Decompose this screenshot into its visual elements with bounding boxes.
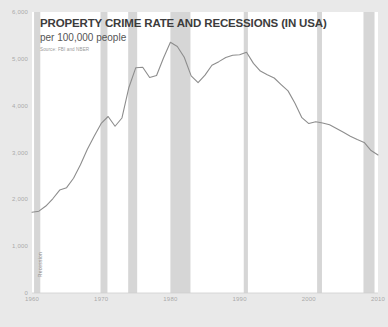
title-block: PROPERTY CRIME RATE AND RECESSIONS (IN U… xyxy=(40,17,330,53)
y-axis-tick-label: 1,000 xyxy=(12,243,28,249)
recession-bands-group xyxy=(34,12,374,293)
x-axis-tick-label: 1980 xyxy=(163,296,177,302)
chart-source-note: Source: FBI and NBER xyxy=(40,46,330,53)
crime-rate-line xyxy=(32,42,378,212)
y-axis-tick-label: 4,000 xyxy=(12,103,28,109)
recession-band xyxy=(128,12,137,293)
x-axis-tick-label: 1970 xyxy=(94,296,108,302)
x-axis-tick-label: 2010 xyxy=(371,296,385,302)
y-axis-tick-column: 01,0002,0003,0004,0005,0006,000 xyxy=(0,0,28,327)
y-axis-tick-label: 2,000 xyxy=(12,196,28,202)
property-crime-chart: 01,0002,0003,0004,0005,0006,000 19601970… xyxy=(0,0,388,327)
y-axis-tick-label: 5,000 xyxy=(12,56,28,62)
recession-band xyxy=(363,12,374,293)
recession-band xyxy=(101,12,108,293)
chart-subtitle: per 100,000 people xyxy=(40,31,330,44)
x-axis-tick-label: 2000 xyxy=(302,296,316,302)
recession-band xyxy=(317,12,322,293)
y-axis-tick-label: 3,000 xyxy=(12,150,28,156)
recession-band xyxy=(34,12,40,293)
page-title: PROPERTY CRIME RATE AND RECESSIONS (IN U… xyxy=(40,17,330,30)
x-axis-tick-label: 1990 xyxy=(233,296,247,302)
y-axis-tick-label: 6,000 xyxy=(12,9,28,15)
recession-annotation-label: Recession xyxy=(37,252,43,277)
recession-band xyxy=(170,12,190,293)
x-axis-tick-label: 1960 xyxy=(25,296,39,302)
